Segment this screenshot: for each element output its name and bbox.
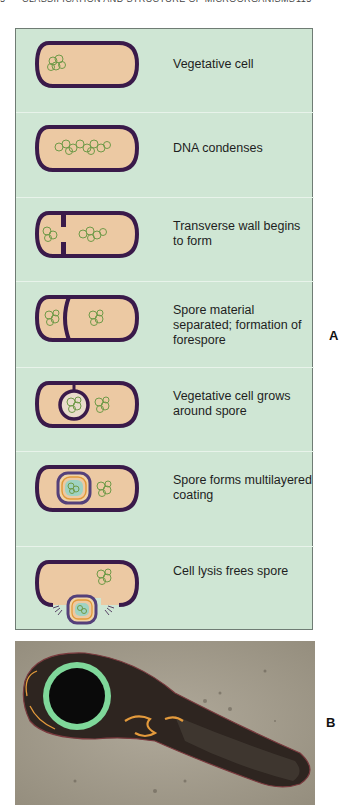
vegetative-cell-icon — [31, 37, 141, 92]
stage-caption: Spore forms multilayered coating — [173, 473, 313, 503]
divider — [16, 197, 314, 198]
endospore-micrograph-image — [15, 641, 315, 805]
panel-a-label: A — [329, 328, 338, 343]
panel-b-label: B — [326, 715, 335, 730]
divider — [16, 112, 314, 113]
stage-forespore-formation: Spore material separated; formation of f… — [16, 291, 314, 377]
stage-caption: Vegetative cell grows around spore — [173, 389, 313, 419]
divider — [16, 281, 314, 282]
divider — [16, 546, 314, 547]
stage-caption: DNA condenses — [173, 141, 313, 156]
running-head: 5 Classification and Structure of Microo… — [0, 0, 348, 6]
divider — [16, 367, 314, 368]
stage-dna-condenses: DNA condenses — [16, 121, 314, 207]
spore-coating-cell-icon — [31, 461, 141, 516]
stage-vegetative-cell: Vegetative cell — [16, 37, 314, 123]
cell-lysis-icon — [31, 556, 141, 626]
stage-caption: Transverse wall begins to form — [173, 219, 313, 249]
dna-condensing-cell-icon — [31, 121, 141, 176]
engulfment-cell-icon — [31, 377, 141, 432]
stage-caption: Cell lysis frees spore — [173, 564, 313, 579]
divider — [16, 451, 314, 452]
stage-caption: Spore material separated; formation of f… — [173, 303, 313, 348]
stage-caption: Vegetative cell — [173, 57, 313, 72]
page-number: 115 — [296, 0, 312, 4]
transverse-wall-cell-icon — [31, 207, 141, 262]
panel-b-micrograph — [15, 641, 315, 805]
panel-a-sporulation-diagram: Vegetative cell DNA condenses Transverse… — [15, 28, 313, 630]
chapter-title: Classification and Structure of Microorg… — [22, 0, 295, 4]
stage-multilayer-coat: Spore forms multilayered coating — [16, 461, 314, 547]
stage-cell-lysis: Cell lysis frees spore — [16, 556, 314, 630]
forespore-cell-icon — [31, 291, 141, 346]
chapter-number: 5 — [0, 0, 5, 4]
